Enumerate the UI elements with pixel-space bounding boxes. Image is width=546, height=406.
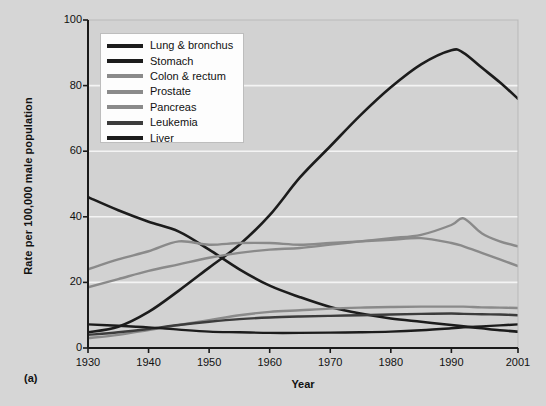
legend-label: Pancreas	[150, 102, 196, 113]
x-axis-tick-label: 1970	[308, 356, 352, 368]
legend-item: Lung & bronchus	[107, 38, 243, 53]
legend-label: Stomach	[150, 56, 193, 67]
legend-color-swatch	[107, 90, 143, 94]
legend-item: Liver	[107, 130, 243, 145]
legend-color-swatch	[107, 121, 143, 125]
legend-color-swatch	[107, 74, 143, 78]
legend-label: Lung & bronchus	[150, 40, 233, 51]
legend-item: Stomach	[107, 53, 243, 68]
legend-color-swatch	[107, 136, 143, 140]
legend-color-swatch	[107, 59, 143, 63]
legend-label: Liver	[150, 133, 174, 144]
x-axis-tick-labels: 19301940195019601970198019902001	[0, 0, 546, 406]
legend-item: Colon & rectum	[107, 69, 243, 84]
figure-panel-a: Rate per 100,000 male population Year (a…	[0, 0, 546, 406]
x-axis-tick-label: 1930	[66, 356, 110, 368]
legend-label: Leukemia	[150, 117, 198, 128]
legend-color-swatch	[107, 105, 143, 109]
x-axis-tick-label: 1940	[127, 356, 171, 368]
x-axis-tick-label: 2001	[496, 356, 540, 368]
x-axis-tick-label: 1980	[369, 356, 413, 368]
legend-label: Colon & rectum	[150, 71, 226, 82]
legend-color-swatch	[107, 44, 143, 48]
legend-label: Prostate	[150, 86, 191, 97]
legend-item: Leukemia	[107, 115, 243, 130]
x-axis-tick-label: 1990	[429, 356, 473, 368]
x-axis-tick-label: 1950	[187, 356, 231, 368]
legend-item: Pancreas	[107, 100, 243, 115]
chart-legend: Lung & bronchusStomachColon & rectumPros…	[100, 33, 244, 143]
legend-item: Prostate	[107, 84, 243, 99]
x-axis-tick-label: 1960	[248, 356, 292, 368]
